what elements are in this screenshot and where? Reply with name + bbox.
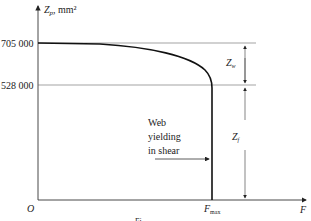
tick-label-528000: 528 000 <box>1 80 34 91</box>
annotation-line-3: in shear <box>148 145 180 156</box>
origin-label: O <box>27 203 34 214</box>
zp-curve <box>38 43 212 200</box>
zf-label: Zf <box>232 131 241 143</box>
annotation-line-1: Web <box>148 117 166 128</box>
tick-label-705000: 705 000 <box>1 38 34 49</box>
fmax-label: Fmax <box>203 203 220 215</box>
caption-fragment: Fi <box>135 217 142 221</box>
y-axis-label: Zp, mm² <box>44 4 77 17</box>
annotation-line-2: yielding <box>148 131 181 142</box>
zw-label: Zw <box>226 57 236 69</box>
zp-vs-force-diagram: Zp, mm² 705 000 528 000 Zw Zf Web yieldi… <box>0 0 311 221</box>
x-axis-label: F <box>299 204 307 215</box>
